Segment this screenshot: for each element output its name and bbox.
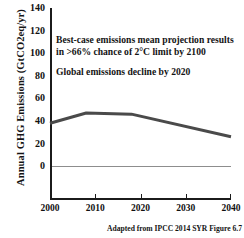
x-axis-tick-labels: 20002010202020302040 xyxy=(50,203,231,217)
chart-figure: Annual GHG Emissions (GtCO2eq/yr) 020406… xyxy=(0,0,244,238)
x-tick-label: 2000 xyxy=(41,203,60,213)
x-tick-mark xyxy=(186,194,187,198)
x-tick-mark xyxy=(141,194,142,198)
annotation-primary: Best-case emissions mean projection resu… xyxy=(56,34,236,57)
x-tick-mark xyxy=(95,194,96,198)
y-tick-label: 0 xyxy=(19,161,45,171)
x-tick-label: 2010 xyxy=(86,203,105,213)
y-tick-label: 80 xyxy=(19,71,45,81)
y-tick-label: 40 xyxy=(19,116,45,126)
x-tick-mark xyxy=(50,194,51,198)
x-tick-mark xyxy=(230,194,231,198)
x-tick-label: 2040 xyxy=(222,203,241,213)
y-tick-label: 140 xyxy=(19,3,45,13)
chart-annotations: Best-case emissions mean projection resu… xyxy=(56,34,236,78)
y-tick-label: 120 xyxy=(19,26,45,36)
y-tick-label: 100 xyxy=(19,48,45,58)
y-tick-label: 60 xyxy=(19,93,45,103)
source-caption: Adapted from IPCC 2014 SYR Figure 6.7 xyxy=(107,224,242,233)
annotation-secondary: Global emissions decline by 2020 xyxy=(56,66,236,78)
y-tick-label: 20 xyxy=(19,139,45,149)
x-tick-label: 2030 xyxy=(176,203,195,213)
x-tick-label: 2020 xyxy=(131,203,150,213)
